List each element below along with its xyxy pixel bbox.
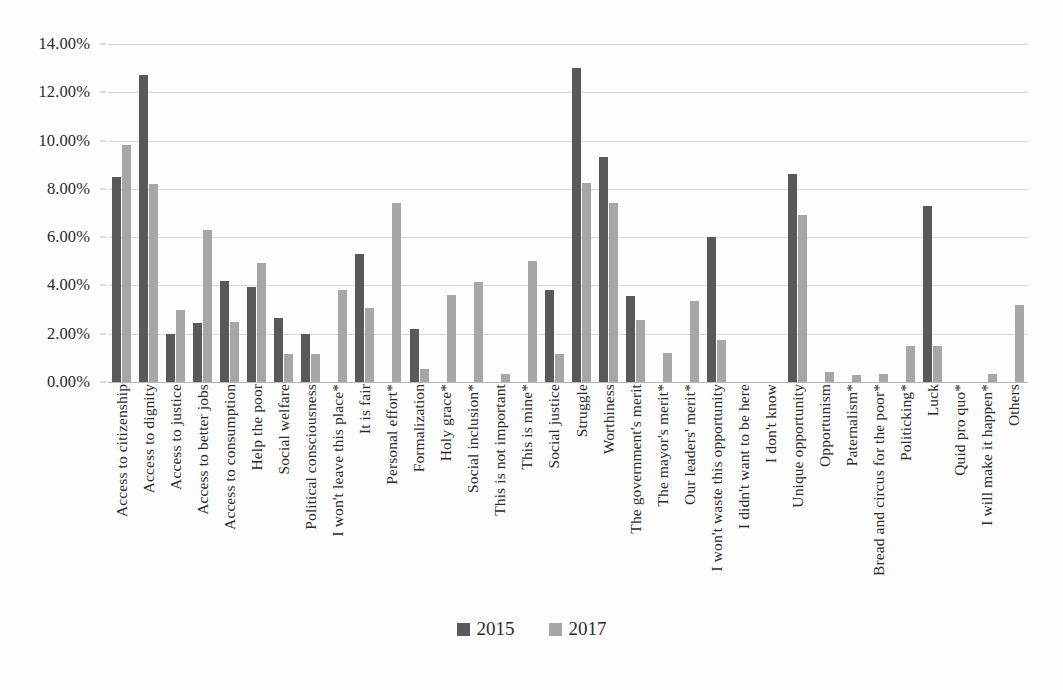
x-axis-category-label: It is fair: [352, 384, 379, 612]
x-axis-category-label: Political consciousness: [297, 384, 324, 612]
bar-2015: [707, 237, 716, 382]
bar-2015: [626, 296, 635, 382]
x-axis-category-text: Paternalism*: [843, 384, 861, 466]
bar-2015: [112, 177, 121, 382]
legend-label: 2015: [477, 618, 515, 640]
x-axis-category-text: Holy grace*: [437, 384, 455, 461]
bar-group: [811, 44, 838, 382]
gridline: [108, 382, 1028, 383]
y-axis-tick: [100, 237, 106, 238]
x-axis-category-label: Worthiness: [595, 384, 622, 612]
bar-2017: [988, 374, 997, 382]
x-axis-category-text: Social inclusion*: [464, 384, 482, 493]
bar-2017: [1015, 305, 1024, 382]
bar-group: [649, 44, 676, 382]
bar-group: [487, 44, 514, 382]
bar-2015: [301, 334, 310, 382]
x-axis-category-label: Access to consumption: [216, 384, 243, 612]
x-axis-category-label: The government's merit: [622, 384, 649, 612]
x-axis-category-label: I will make it happen*: [974, 384, 1001, 612]
y-axis-tick-label: 8.00%: [47, 179, 90, 199]
bar-2015: [923, 206, 932, 382]
bar-2017: [690, 301, 699, 382]
y-axis-tick-label: 6.00%: [47, 227, 90, 247]
x-axis-category-text: I won't leave this place*: [329, 384, 347, 537]
y-axis-tick: [100, 382, 106, 383]
x-axis-category-label: Quid pro quo*: [947, 384, 974, 612]
x-axis-category-label: Social inclusion*: [460, 384, 487, 612]
bar-2015: [788, 174, 797, 382]
x-axis-category-text: The government's merit: [627, 384, 645, 534]
bar-2017: [906, 346, 915, 382]
x-axis-category-label: I won't waste this opportunity: [703, 384, 730, 612]
bar-group: [351, 44, 378, 382]
bar-2017: [203, 230, 212, 382]
bar-group: [946, 44, 973, 382]
x-axis-category-text: The mayor's merit*: [654, 384, 672, 507]
bar-group: [378, 44, 405, 382]
bar-2015: [139, 75, 148, 382]
x-axis-category-label: Struggle: [568, 384, 595, 612]
x-axis-category-label: I won't leave this place*: [324, 384, 351, 612]
bar-group: [135, 44, 162, 382]
bar-2017: [311, 354, 320, 382]
legend-item[interactable]: 2017: [549, 618, 607, 640]
y-axis-tick: [100, 188, 106, 189]
x-axis-category-label: The mayor's merit*: [649, 384, 676, 612]
bar-2015: [599, 157, 608, 382]
plot-area: [108, 44, 1028, 382]
x-axis-category-label: Opportunism: [812, 384, 839, 612]
bar-group: [865, 44, 892, 382]
y-axis-tick: [100, 92, 106, 93]
x-axis-category-text: Social justice: [545, 384, 563, 468]
x-axis-category-text: Personal effort*: [383, 384, 401, 485]
y-axis-tick: [100, 140, 106, 141]
bar-group: [189, 44, 216, 382]
x-axis-category-label: This is not important: [487, 384, 514, 612]
legend-item[interactable]: 2015: [457, 618, 515, 640]
bar-2015: [545, 290, 554, 382]
bar-group: [243, 44, 270, 382]
x-axis-category-text: Struggle: [573, 384, 591, 437]
bar-group: [1001, 44, 1028, 382]
x-axis-category-text: Our leaders' merit*: [681, 384, 699, 505]
y-axis: 0.00%2.00%4.00%6.00%8.00%10.00%12.00%14.…: [0, 44, 100, 382]
x-axis-category-text: Access to better jobs: [194, 384, 212, 515]
bar-group: [406, 44, 433, 382]
bar-2017: [501, 374, 510, 382]
bar-group: [270, 44, 297, 382]
bar-2017: [798, 215, 807, 382]
x-axis-labels: Access to citizenshipAccess to dignityAc…: [108, 384, 1028, 612]
y-axis-tick-label: 4.00%: [47, 275, 90, 295]
x-axis-category-text: Unique opportunity: [789, 384, 807, 508]
x-axis-category-text: Others: [1005, 384, 1023, 426]
legend-label: 2017: [569, 618, 607, 640]
x-axis-category-label: I don't know: [757, 384, 784, 612]
bar-group: [838, 44, 865, 382]
x-axis-category-text: I don't know: [762, 384, 780, 463]
bar-2017: [717, 340, 726, 382]
bar-2017: [230, 322, 239, 382]
x-axis-category-label: Formalization: [406, 384, 433, 612]
x-axis-category-label: Luck: [920, 384, 947, 612]
bar-group: [297, 44, 324, 382]
y-axis-tick-label: 14.00%: [39, 34, 90, 54]
x-axis-category-text: It is fair: [356, 384, 374, 434]
bar-2017: [609, 203, 618, 382]
bar-group: [108, 44, 135, 382]
bar-2017: [365, 308, 374, 382]
x-axis-category-text: Help the poor: [248, 384, 266, 471]
y-axis-tick-label: 0.00%: [47, 372, 90, 392]
x-axis-category-label: Help the poor: [243, 384, 270, 612]
bar-group: [568, 44, 595, 382]
x-axis-category-label: Our leaders' merit*: [676, 384, 703, 612]
bar-group: [324, 44, 351, 382]
bar-group: [514, 44, 541, 382]
x-axis-category-text: This is mine*: [518, 384, 536, 470]
x-axis-category-text: Access to justice: [167, 384, 185, 490]
x-axis-category-text: I won't waste this opportunity: [708, 384, 726, 571]
bar-group: [541, 44, 568, 382]
bar-2017: [257, 263, 266, 383]
x-axis-category-label: I didn't want to be here: [730, 384, 757, 612]
bars-layer: [108, 44, 1028, 382]
